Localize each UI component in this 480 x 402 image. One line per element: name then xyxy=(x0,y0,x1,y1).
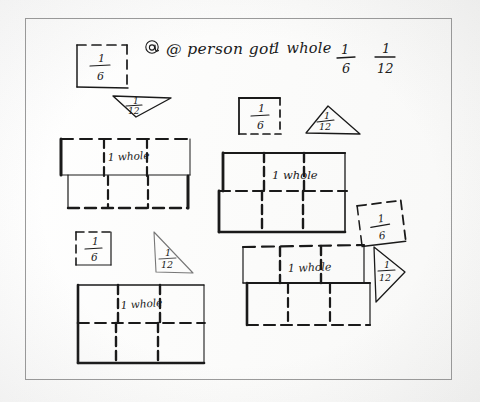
title-fraction-one-twelfth: 1 12 xyxy=(375,41,395,76)
one-twelfth-numerator: 1 xyxy=(133,96,139,106)
one-twelfth-denominator: 12 xyxy=(128,106,140,116)
one-sixth-denominator: 6 xyxy=(97,70,104,83)
one-twelfth-numerator: 1 xyxy=(324,110,330,121)
one-sixth-denominator: 6 xyxy=(91,251,98,263)
one-whole-label: 1 whole xyxy=(288,260,333,275)
group-top-left: 1 6 1 12 xyxy=(77,45,171,117)
one-twelfth-label-lower-left: 1 12 xyxy=(159,247,176,270)
at-symbol-icon xyxy=(146,41,159,53)
title-frac2-denominator: 12 xyxy=(377,61,394,76)
one-sixth-label-top-right: 1 6 xyxy=(251,102,269,132)
one-sixth-label-top-left: 1 6 xyxy=(90,52,110,83)
one-twelfth-numerator: 1 xyxy=(165,247,171,258)
one-twelfth-denominator: 12 xyxy=(379,272,391,283)
title-frac1-denominator: 6 xyxy=(342,61,350,76)
group-top-right: 1 6 1 12 xyxy=(239,98,360,134)
title-prefix-text: @ person got xyxy=(166,40,276,58)
title-frac1-numerator: 1 xyxy=(341,42,349,57)
one-sixth-label-lower-left: 1 6 xyxy=(85,235,102,263)
title-frac2-numerator: 1 xyxy=(382,41,390,56)
one-twelfth-label-top-right: 1 12 xyxy=(317,110,334,132)
one-whole-label: 1 whole xyxy=(272,168,318,182)
one-sixth-denominator: 6 xyxy=(378,229,386,242)
handwritten-ink-layer: @ person got 1 whole 1 6 1 12 xyxy=(0,0,480,402)
one-twelfth-denominator: 12 xyxy=(161,259,173,270)
group-lower-left-fractions: 1 6 1 12 xyxy=(76,232,193,273)
one-twelfth-label-top-left: 1 12 xyxy=(126,96,142,116)
one-twelfth-triangle-lower-left xyxy=(154,232,193,273)
one-sixth-numerator: 1 xyxy=(377,212,385,225)
one-twelfth-denominator: 12 xyxy=(319,121,331,132)
worksheet-scan-page: @ person got 1 whole 1 6 1 12 xyxy=(0,0,480,402)
one-twelfth-triangle-top-left xyxy=(113,96,171,117)
one-twelfth-numerator: 1 xyxy=(384,259,390,270)
one-sixth-numerator: 1 xyxy=(98,52,105,65)
group-mid-left-one-whole: 1 whole xyxy=(61,139,190,208)
one-sixth-denominator: 6 xyxy=(257,119,264,132)
title-line: @ person got 1 whole 1 6 1 12 xyxy=(146,40,395,76)
group-lower-left-one-whole: 1 whole xyxy=(78,285,205,363)
one-sixth-numerator: 1 xyxy=(258,102,265,115)
title-whole-text: 1 whole xyxy=(272,40,332,56)
one-whole-label: 1 whole xyxy=(120,296,162,311)
group-mid-right-one-whole: 1 whole xyxy=(219,153,347,232)
one-sixth-label-right: 1 6 xyxy=(369,211,391,242)
one-sixth-numerator: 1 xyxy=(92,235,99,247)
one-whole-label: 1 whole xyxy=(107,149,149,163)
group-lower-right-one-whole: 1 whole xyxy=(243,245,370,325)
title-fraction-one-sixth: 1 6 xyxy=(337,42,355,76)
